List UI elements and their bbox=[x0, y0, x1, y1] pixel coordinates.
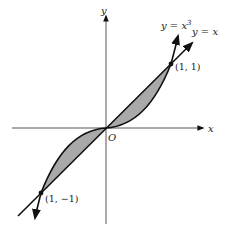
origin-label: O bbox=[108, 132, 116, 143]
point-1-neg1 bbox=[39, 191, 44, 196]
line-label: y = x bbox=[191, 26, 218, 37]
x-axis-label: x bbox=[208, 123, 214, 134]
diagram-canvas: y x O y = x3 y = x (1, 1) (1, −1) bbox=[0, 0, 228, 238]
y-axis-label: y bbox=[100, 5, 107, 16]
cubic-label: y = x3 bbox=[160, 19, 192, 31]
point-1-1 bbox=[169, 62, 174, 67]
point-1-1-label: (1, 1) bbox=[175, 61, 201, 72]
line-y-equals-x bbox=[18, 43, 192, 216]
point-1-neg1-label: (1, −1) bbox=[45, 193, 79, 204]
